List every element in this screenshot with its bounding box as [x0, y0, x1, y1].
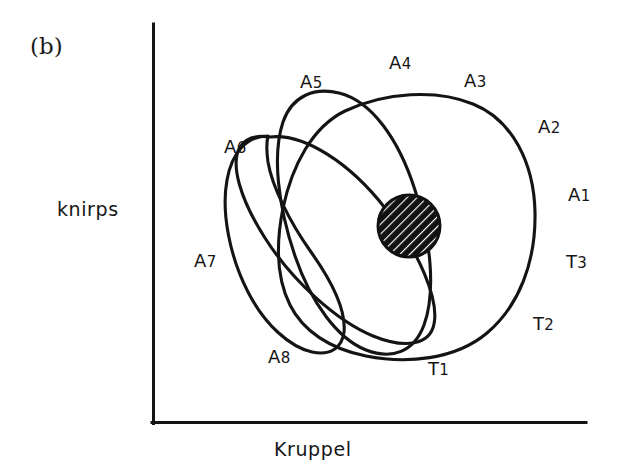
- curve-label-a3-sub: 3: [477, 73, 487, 91]
- curve-label-a7-base: A: [194, 250, 207, 271]
- curve-label-a1-sub: 1: [581, 187, 591, 205]
- curve-label-a5-sub: 5: [313, 74, 323, 92]
- curve-label-a2-base: A: [538, 116, 551, 137]
- curve-label-a2: A2: [538, 118, 560, 136]
- curve-label-a6-sub: 6: [237, 139, 247, 157]
- curve-label-a8: A8: [268, 348, 290, 366]
- curve-label-a6-base: A: [224, 136, 237, 157]
- curve-label-t3-sub: 3: [577, 254, 587, 272]
- curve-label-t1: T1: [428, 360, 449, 378]
- curve-label-t2-sub: 2: [544, 316, 554, 334]
- curve-label-a6: A6: [224, 138, 246, 156]
- curve-label-a4-sub: 4: [402, 55, 412, 73]
- curve-label-a4-base: A: [389, 52, 402, 73]
- curve-label-a8-base: A: [268, 346, 281, 367]
- curve-label-a1-base: A: [568, 184, 581, 205]
- curve-label-t3-base: T: [566, 251, 577, 272]
- curve-label-t2-base: T: [533, 313, 544, 334]
- curve-label-t2: T2: [533, 315, 554, 333]
- curve-label-t1-base: T: [428, 358, 439, 379]
- curve-label-a7-sub: 7: [207, 253, 217, 271]
- curve-label-a4: A4: [389, 54, 411, 72]
- curve-label-a3: A3: [464, 72, 486, 90]
- curve-label-a2-sub: 2: [551, 119, 561, 137]
- axis-lines: [152, 24, 586, 424]
- hatched-disc-marker: [378, 195, 440, 257]
- curve-label-a5: A5: [300, 73, 322, 91]
- curve-label-a8-sub: 8: [281, 349, 291, 367]
- figure-drawing: [0, 0, 632, 475]
- figure-panel: (b) knirps Kruppel A5 A4 A3 A2 A1 T3 T2 …: [0, 0, 632, 475]
- contour-left-lobe: [225, 136, 344, 353]
- curve-label-a3-base: A: [464, 70, 477, 91]
- panel-letter: (b): [30, 35, 63, 58]
- curve-label-t3: T3: [566, 253, 587, 271]
- y-axis-title: knirps: [57, 200, 119, 219]
- curve-label-a7: A7: [194, 252, 216, 270]
- curve-label-t1-sub: 1: [439, 361, 449, 379]
- curve-label-a1: A1: [568, 186, 590, 204]
- x-axis-title: Kruppel: [274, 440, 352, 459]
- curve-label-a5-base: A: [300, 71, 313, 92]
